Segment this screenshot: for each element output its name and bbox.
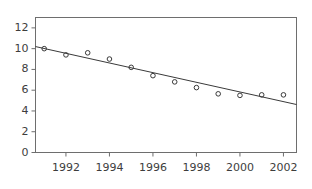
data-point-marker — [85, 51, 90, 56]
x-tick-label: 1992 — [52, 161, 80, 174]
y-tick-label: 4 — [22, 104, 29, 117]
y-tick-label: 6 — [22, 83, 29, 96]
scatter-plot-figure: 024681012199219941996199820002002 — [0, 0, 312, 189]
data-point-marker — [216, 92, 221, 97]
data-point-marker — [107, 57, 112, 62]
data-point-marker — [172, 80, 177, 85]
y-tick-label: 12 — [15, 21, 29, 34]
data-point-marker — [194, 85, 199, 90]
chart-canvas: 024681012199219941996199820002002 — [0, 0, 312, 189]
plot-frame — [36, 18, 297, 153]
x-tick-label: 2002 — [269, 161, 297, 174]
y-tick-label: 10 — [15, 42, 29, 55]
data-point-marker — [238, 93, 243, 98]
data-point-marker — [281, 93, 286, 98]
x-tick-label: 1994 — [95, 161, 123, 174]
fitted-trend-line — [36, 47, 297, 105]
x-tick-label: 2000 — [226, 161, 254, 174]
data-point-marker — [151, 73, 156, 78]
y-tick-label: 8 — [22, 62, 29, 75]
x-tick-label: 1998 — [182, 161, 210, 174]
y-tick-label: 2 — [22, 125, 29, 138]
x-tick-label: 1996 — [139, 161, 167, 174]
y-tick-label: 0 — [22, 146, 29, 159]
